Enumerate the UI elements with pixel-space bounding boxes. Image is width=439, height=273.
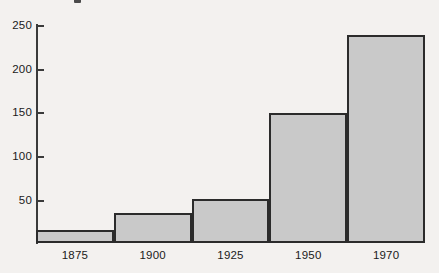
cropped-mark-icon [74, 0, 81, 3]
y-axis-tick-150 [37, 112, 44, 114]
y-axis-label-250: 250 [2, 19, 32, 31]
bar-1900 [114, 213, 192, 243]
x-axis-label-1875: 1875 [36, 249, 114, 261]
y-axis-label-200: 200 [2, 63, 32, 75]
y-axis-tick-100 [37, 156, 44, 158]
x-axis-label-1925: 1925 [192, 249, 270, 261]
x-axis-label-1970: 1970 [347, 249, 425, 261]
y-axis-tick-50 [37, 200, 44, 202]
x-axis-label-1950: 1950 [269, 249, 347, 261]
y-axis-label-50: 50 [2, 194, 32, 206]
bar-1970 [347, 35, 425, 243]
x-axis-label-1900: 1900 [114, 249, 192, 261]
bar-1950 [269, 113, 347, 243]
y-axis-line [36, 24, 38, 244]
y-axis-label-150: 150 [2, 106, 32, 118]
y-axis-tick-200 [37, 69, 44, 71]
y-axis-label-100: 100 [2, 150, 32, 162]
bar-chart: 250 200 150 100 50 1875 1900 1925 1950 1… [0, 0, 439, 273]
bar-1875 [36, 230, 114, 243]
bar-1925 [192, 199, 270, 243]
y-axis-tick-250 [37, 25, 44, 27]
